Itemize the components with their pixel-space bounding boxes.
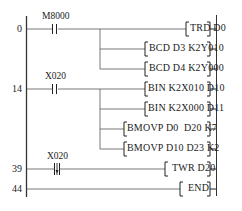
instruction-twr: TWR D20 (172, 162, 215, 173)
instruction-bcd: BCD D3 K2Y010 (149, 42, 224, 53)
instruction-end: END (188, 182, 209, 193)
rung-14 (27, 89, 145, 149)
instruction-trd: TRD D0 (190, 22, 226, 33)
instruction-bin: BIN K2X000 D11 (148, 102, 224, 113)
instruction-bcd: BCD D4 K2Y000 (149, 62, 224, 73)
instruction-bmovp: BMOVP D0 D20 K7 (127, 122, 217, 133)
contact-x020 (53, 84, 57, 94)
instruction-bin: BIN K2X010 D10 (148, 82, 225, 93)
step-number: 44 (0, 183, 22, 194)
contact-m8000 (53, 24, 57, 34)
contact-label: X020 (47, 151, 68, 161)
step-number: 0 (0, 23, 22, 34)
instruction-bmovp: BMOVP D10 D23 K2 (127, 142, 220, 153)
step-number: 14 (0, 83, 22, 94)
contact-label: X020 (45, 71, 66, 81)
step-number: 39 (0, 163, 22, 174)
contact-x020-falling-edge (55, 163, 60, 175)
contact-label: M8000 (42, 11, 69, 21)
